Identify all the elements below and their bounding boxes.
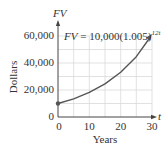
y-axis-var-label: FV (52, 7, 68, 19)
svg-text:10: 10 (84, 120, 96, 132)
svg-text:60,000: 60,000 (24, 29, 55, 41)
svg-text:30: 30 (147, 120, 159, 132)
equation-label: FV = 10,000(1.005)12t (63, 29, 161, 43)
svg-text:20,000: 20,000 (24, 83, 55, 95)
svg-text:0: 0 (49, 110, 55, 122)
svg-text:20: 20 (115, 120, 127, 132)
start-point (56, 101, 60, 105)
grid (58, 36, 152, 117)
svg-text:40,000: 40,000 (24, 56, 55, 68)
svg-text:0: 0 (56, 120, 62, 132)
x-axis-var-label: t (158, 110, 162, 122)
chart-svg: FV t FV = 10,000(1.005)12t 0 20,000 40,0… (0, 0, 165, 147)
x-axis-title: Years (93, 133, 118, 145)
y-ticks: 0 20,000 40,000 60,000 (24, 29, 55, 122)
y-axis-title: Dollars (7, 61, 19, 93)
x-ticks: 0 10 20 30 (56, 120, 158, 132)
